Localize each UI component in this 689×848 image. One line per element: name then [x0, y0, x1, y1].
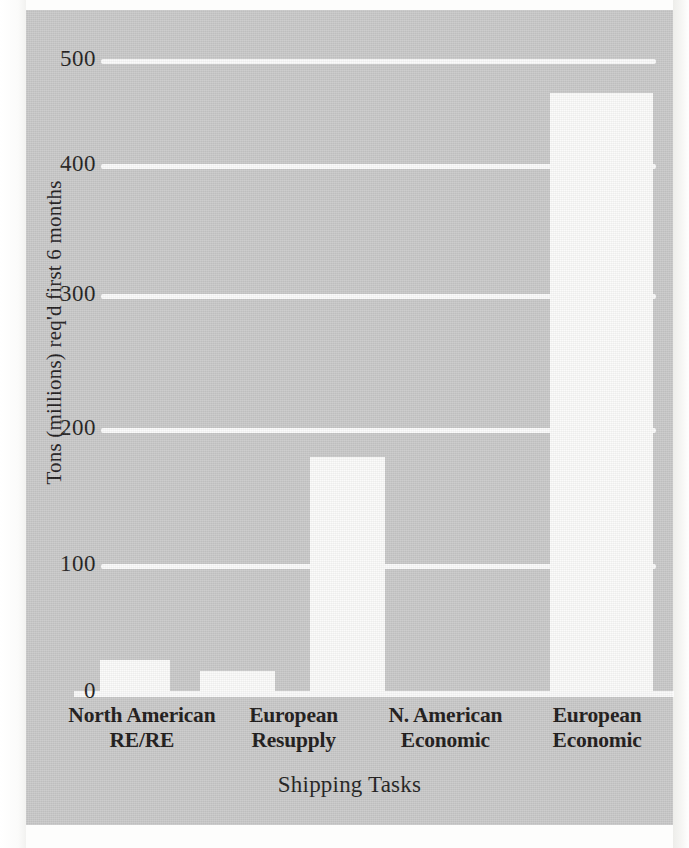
x-axis-title: Shipping Tasks	[26, 772, 673, 798]
x-category-line1: European	[553, 703, 642, 727]
bar-north-american-re-re[interactable]	[100, 660, 170, 692]
x-axis-categories: North American RE/RE European Resupply N…	[66, 703, 673, 753]
page-right-margin	[673, 0, 689, 848]
x-category-line2: Economic	[370, 728, 522, 753]
x-category-3: European Economic	[521, 703, 673, 753]
x-category-line2: Economic	[521, 728, 673, 753]
y-axis-title: Tons (millions) req'd first 6 months	[42, 53, 67, 613]
x-category-1: European Resupply	[218, 703, 370, 753]
x-category-0: North American RE/RE	[66, 703, 218, 753]
x-category-line2: Resupply	[218, 728, 370, 753]
x-category-2: N. American Economic	[370, 703, 522, 753]
chart-figure: 500 400 300 200 100 0 Tons (milli	[0, 0, 689, 848]
x-category-line1: N. American	[389, 703, 503, 727]
bar-european-economic[interactable]	[550, 93, 653, 692]
plot-panel: 500 400 300 200 100 0 Tons (milli	[26, 10, 673, 825]
bar-n-american-economic[interactable]	[310, 457, 385, 692]
gridline-500	[101, 59, 656, 64]
page-left-margin	[0, 0, 26, 848]
x-category-line2: RE/RE	[66, 728, 218, 753]
plot-area: 500 400 300 200 100 0 Tons (milli	[26, 10, 673, 825]
x-category-line1: European	[249, 703, 338, 727]
ytick-0: 0	[26, 678, 96, 704]
x-category-line1: North American	[68, 703, 215, 727]
bar-european-resupply[interactable]	[200, 671, 275, 692]
ytick-label: 0	[32, 678, 96, 704]
